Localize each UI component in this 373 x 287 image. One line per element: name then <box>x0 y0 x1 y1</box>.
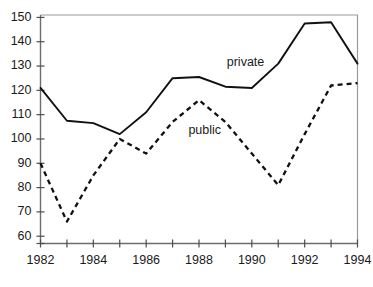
line-chart-figure: 60708090100110120130140150 1982198419861… <box>0 0 373 287</box>
x-tick-label: 1984 <box>79 253 107 267</box>
x-tick-label: 1992 <box>291 253 319 267</box>
chart-page: 60708090100110120130140150 1982198419861… <box>0 0 373 287</box>
y-tick-label: 60 <box>18 229 32 243</box>
y-axis-ticks: 60708090100110120130140150 <box>11 10 45 244</box>
series-line-private <box>41 22 358 134</box>
y-tick-label: 90 <box>18 156 32 170</box>
chart-svg: 60708090100110120130140150 1982198419861… <box>0 0 373 287</box>
series-label-public: public <box>188 123 221 137</box>
x-tick-label: 1988 <box>185 253 213 267</box>
series-line-public <box>41 83 358 222</box>
y-tick-label: 70 <box>18 204 32 218</box>
y-tick-label: 80 <box>18 180 32 194</box>
y-tick-label: 140 <box>11 34 32 48</box>
y-tick-label: 150 <box>11 10 32 24</box>
y-tick-label: 100 <box>11 131 32 145</box>
series-label-private: private <box>227 55 265 69</box>
x-tick-label: 1994 <box>344 253 372 267</box>
x-tick-label: 1986 <box>132 253 160 267</box>
y-tick-label: 120 <box>11 83 32 97</box>
x-tick-label: 1982 <box>27 253 55 267</box>
y-tick-label: 110 <box>12 107 32 121</box>
x-tick-label: 1990 <box>238 253 266 267</box>
series-annotations: privatepublic <box>188 55 264 137</box>
y-tick-label: 130 <box>11 58 32 72</box>
